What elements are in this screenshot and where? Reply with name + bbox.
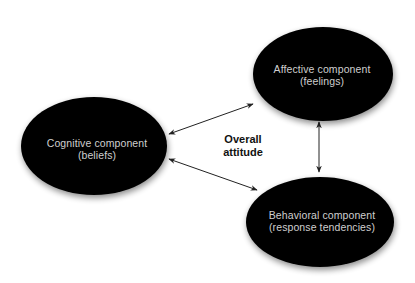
behavioral-title: Behavioral component <box>269 209 375 221</box>
connector-cognitive-affective <box>169 104 253 134</box>
node-cognitive: Cognitive component (beliefs) <box>21 97 167 195</box>
cognitive-subtitle: (beliefs) <box>78 149 116 161</box>
connector-cognitive-behavioral <box>169 159 257 190</box>
center-label-line-1: Overall <box>224 133 261 145</box>
affective-title: Affective component <box>274 63 371 75</box>
cognitive-title: Cognitive component <box>47 137 148 149</box>
attitude-components-diagram: Cognitive component (beliefs) Affective … <box>0 0 415 283</box>
node-affective: Affective component (feelings) <box>253 27 393 121</box>
overall-attitude-label: Overall attitude <box>223 133 263 158</box>
affective-subtitle: (feelings) <box>300 75 344 87</box>
center-label-line-2: attitude <box>223 146 263 158</box>
node-behavioral: Behavioral component (response tendencie… <box>246 177 394 267</box>
behavioral-subtitle: (response tendencies) <box>269 221 375 233</box>
